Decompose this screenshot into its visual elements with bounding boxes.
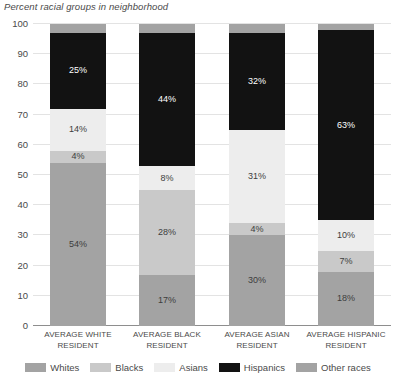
bar-segment-whites[interactable]: 17% xyxy=(139,275,195,326)
y-axis-tick-label: 70 xyxy=(17,108,28,119)
bar-segment-value-label: 32% xyxy=(248,77,266,86)
bar-segment-whites[interactable]: 18% xyxy=(318,272,374,326)
x-axis-category-label: AVERAGE BLACK RESIDENT xyxy=(125,330,209,351)
bar-segment-asians[interactable]: 8% xyxy=(139,166,195,190)
bar-segment-blacks[interactable]: 7% xyxy=(318,251,374,272)
bar-segment-other-races[interactable] xyxy=(139,24,195,33)
bar-segment-value-label: 4% xyxy=(71,152,84,161)
legend-label: Other races xyxy=(321,362,371,373)
bar-segment-blacks[interactable]: 4% xyxy=(50,151,106,163)
bar-segment-value-label: 8% xyxy=(160,174,173,183)
bar-segment-value-label: 7% xyxy=(339,257,352,266)
bar-segment-value-label: 28% xyxy=(158,228,176,237)
bar-segment-other-races[interactable] xyxy=(50,24,106,33)
y-axis-tick-label: 0 xyxy=(23,320,28,331)
legend-swatch-icon xyxy=(296,363,317,372)
y-axis-tick-label: 40 xyxy=(17,199,28,210)
y-axis-tick-label: 60 xyxy=(17,138,28,149)
x-axis-category-label: AVERAGE WHITE RESIDENT xyxy=(36,330,120,351)
bar-segment-value-label: 17% xyxy=(158,296,176,305)
bar-stack: 54%4%14%25% xyxy=(50,24,106,326)
bar-segment-value-label: 31% xyxy=(248,172,266,181)
legend-swatch-icon xyxy=(219,363,240,372)
x-axis-category-label: AVERAGE HISPANIC RESIDENT xyxy=(304,330,388,351)
legend-item[interactable]: Whites xyxy=(25,362,79,373)
bar-segment-blacks[interactable]: 4% xyxy=(229,223,285,235)
bar-segment-hispanics[interactable]: 44% xyxy=(139,33,195,166)
y-axis-tick-label: 80 xyxy=(17,78,28,89)
bar-segment-value-label: 10% xyxy=(337,231,355,240)
legend-item[interactable]: Asians xyxy=(154,362,208,373)
bar-segment-value-label: 4% xyxy=(250,225,263,234)
bar-segment-asians[interactable]: 14% xyxy=(50,109,106,151)
bar-segment-other-races[interactable] xyxy=(229,24,285,33)
y-axis-tick-label: 10 xyxy=(17,289,28,300)
y-axis-tick-label: 100 xyxy=(12,18,28,29)
bar-segment-whites[interactable]: 54% xyxy=(50,163,106,326)
legend-swatch-icon xyxy=(90,363,111,372)
legend-swatch-icon xyxy=(154,363,175,372)
legend-label: Blacks xyxy=(115,362,143,373)
bar-segment-hispanics[interactable]: 25% xyxy=(50,33,106,109)
bar-segment-value-label: 18% xyxy=(337,294,355,303)
legend-label: Hispanics xyxy=(244,362,285,373)
plot-area: 0102030405060708090100 54%4%14%25%17%28%… xyxy=(33,24,391,326)
bar-stack: 18%7%10%63% xyxy=(318,24,374,326)
legend-item[interactable]: Blacks xyxy=(90,362,143,373)
bar-segment-other-races[interactable] xyxy=(318,24,374,30)
legend-label: Asians xyxy=(179,362,208,373)
bar-segment-value-label: 25% xyxy=(69,66,87,75)
bar-segment-hispanics[interactable]: 32% xyxy=(229,33,285,130)
chart-title: Percent racial groups in neighborhood xyxy=(4,1,168,12)
y-axis-tick-label: 20 xyxy=(17,259,28,270)
bar-segment-value-label: 30% xyxy=(248,276,266,285)
x-axis-category-label: AVERAGE ASIAN RESIDENT xyxy=(215,330,299,351)
bar-segment-whites[interactable]: 30% xyxy=(229,235,285,326)
bar-stack: 30%4%31%32% xyxy=(229,24,285,326)
stacked-bar-chart: Percent racial groups in neighborhood 01… xyxy=(0,0,396,384)
y-axis-tick-label: 30 xyxy=(17,229,28,240)
bar-segment-value-label: 63% xyxy=(337,121,355,130)
bar-segment-value-label: 14% xyxy=(69,125,87,134)
bar-stack: 17%28%8%44% xyxy=(139,24,195,326)
y-axis-tick-label: 50 xyxy=(17,169,28,180)
bar-segment-blacks[interactable]: 28% xyxy=(139,190,195,275)
legend-item[interactable]: Hispanics xyxy=(219,362,285,373)
legend-item[interactable]: Other races xyxy=(296,362,371,373)
bar-segment-asians[interactable]: 31% xyxy=(229,130,285,224)
chart-legend: WhitesBlacksAsiansHispanicsOther races xyxy=(0,362,396,373)
legend-label: Whites xyxy=(50,362,79,373)
bar-segment-value-label: 54% xyxy=(69,240,87,249)
bar-segment-asians[interactable]: 10% xyxy=(318,220,374,250)
bar-segment-hispanics[interactable]: 63% xyxy=(318,30,374,220)
y-axis-tick-label: 90 xyxy=(17,48,28,59)
bar-segment-value-label: 44% xyxy=(158,95,176,104)
legend-swatch-icon xyxy=(25,363,46,372)
